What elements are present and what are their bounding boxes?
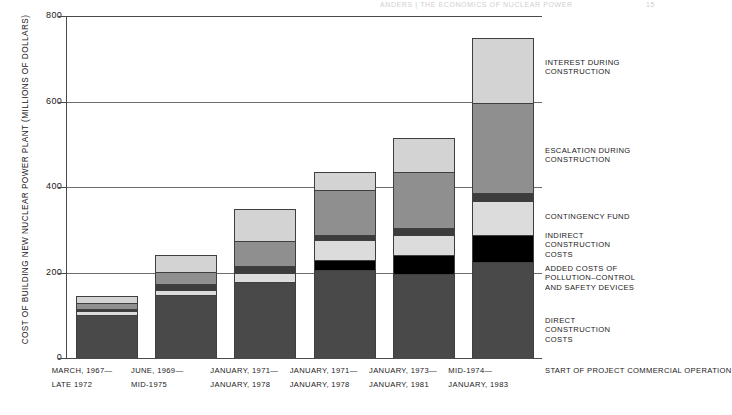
x-axis-label-start: JANUARY, 1973— [369, 366, 437, 375]
bar-segment-indirect[interactable] [234, 273, 296, 282]
x-axis-label: MID-1974—JANUARY, 1983 [448, 364, 508, 392]
legend-item-line1: INDIRECT [545, 231, 657, 240]
bar-group [66, 16, 542, 358]
bar-segment-contingency[interactable] [393, 228, 455, 235]
bar-segment-direct[interactable] [234, 282, 296, 358]
x-axis-labels: START OF PROJECT COMMERCIAL OPERATION MA… [0, 364, 655, 410]
legend-item-line3: COSTS [545, 250, 657, 259]
bar-segment-escalation[interactable] [393, 172, 455, 228]
legend-item-line1: DIRECT [545, 316, 657, 325]
bar-segment-direct[interactable] [393, 274, 455, 358]
bar-segment-escalation[interactable] [472, 103, 534, 193]
legend-item-line2: CONSTRUCTION [545, 240, 657, 249]
bar-column[interactable] [155, 255, 217, 358]
x-axis-label-operation: JANUARY, 1983 [448, 378, 508, 392]
bar-segment-added[interactable] [472, 235, 534, 262]
x-axis-label: JANUARY, 1971—JANUARY, 1978 [210, 364, 278, 392]
page-header: ANDERS | THE ECONOMICS OF NUCLEAR POWER … [380, 0, 655, 10]
x-axis-row-label-start: START OF PROJECT [545, 366, 625, 375]
y-tick-label: 200 [4, 267, 62, 277]
bar-segment-direct[interactable] [472, 262, 534, 358]
x-axis-row-legend: START OF PROJECT COMMERCIAL OPERATION [545, 364, 732, 378]
bar-segment-added[interactable] [393, 255, 455, 274]
legend-item-line2: CONSTRUCTION [545, 67, 657, 76]
legend-item-line3: AND SAFETY DEVICES [545, 283, 657, 292]
legend-item-line1: ESCALATION DURING [545, 146, 657, 155]
x-axis-label: MARCH, 1967—LATE 1972 [52, 364, 113, 392]
legend-item-line1: CONTINGENCY FUND [545, 212, 657, 221]
bar-segment-contingency[interactable] [234, 266, 296, 274]
x-axis-label: JUNE, 1969—MID-1975 [131, 364, 183, 392]
x-axis-label-start: MARCH, 1967— [52, 366, 113, 375]
bar-segment-interest[interactable] [155, 255, 217, 272]
legend-item-line1: INTEREST DURING [545, 58, 657, 67]
legend-item-line2: POLLUTION–CONTROL [545, 273, 657, 282]
bar-segment-interest[interactable] [76, 296, 138, 303]
bar-segment-escalation[interactable] [314, 190, 376, 234]
bar-column[interactable] [393, 138, 455, 358]
bar-segment-indirect[interactable] [393, 235, 455, 256]
bar-segment-interest[interactable] [234, 209, 296, 241]
y-tick-label: 800 [4, 10, 62, 20]
bar-column[interactable] [76, 296, 138, 358]
legend-item-line3: COSTS [545, 335, 657, 344]
bar-segment-direct[interactable] [314, 270, 376, 358]
legend-item: ESCALATION DURINGCONSTRUCTION [545, 146, 657, 165]
x-axis-label-start: JANUARY, 1971— [210, 366, 278, 375]
x-axis-label-operation: JANUARY, 1978 [290, 378, 358, 392]
legend-item: CONTINGENCY FUND [545, 212, 657, 221]
bar-segment-indirect[interactable] [314, 240, 376, 260]
bar-segment-interest[interactable] [393, 138, 455, 172]
bar-segment-contingency[interactable] [472, 193, 534, 202]
y-tick-mark [58, 187, 66, 188]
x-axis-label-start: MID-1974— [448, 366, 492, 375]
legend-item-line1: ADDED COSTS OF [545, 264, 657, 273]
bar-segment-indirect[interactable] [472, 201, 534, 235]
x-axis-label-operation: MID-1975 [131, 378, 183, 392]
y-tick-mark [58, 358, 66, 359]
bar-column[interactable] [314, 172, 376, 358]
x-axis-label-start: JUNE, 1969— [131, 366, 183, 375]
bar-segment-interest[interactable] [314, 172, 376, 190]
legend: INTEREST DURINGCONSTRUCTIONESCALATION DU… [545, 16, 655, 358]
bar-segment-added[interactable] [314, 260, 376, 270]
legend-item: INTEREST DURINGCONSTRUCTION [545, 58, 657, 77]
legend-item: INDIRECTCONSTRUCTIONCOSTS [545, 231, 657, 259]
y-tick-mark [58, 16, 66, 17]
y-tick-label: 0 [4, 352, 62, 362]
x-axis-label: JANUARY, 1973—JANUARY, 1981 [369, 364, 437, 392]
bar-segment-escalation[interactable] [234, 241, 296, 265]
page-header-title: ANDERS | THE ECONOMICS OF NUCLEAR POWER [380, 1, 573, 8]
bar-column[interactable] [472, 38, 534, 358]
page-number: 15 [646, 1, 655, 8]
bar-column[interactable] [234, 209, 296, 358]
x-axis-label-start: JANUARY, 1971— [290, 366, 358, 375]
legend-item-line2: CONSTRUCTION [545, 325, 657, 334]
x-axis-line [66, 358, 542, 359]
y-axis-title: COST OF BUILDING NEW NUCLEAR POWER PLANT… [21, 5, 30, 355]
x-axis-row-label-operation: COMMERCIAL OPERATION [627, 366, 731, 375]
y-tick-mark [58, 273, 66, 274]
legend-item: ADDED COSTS OFPOLLUTION–CONTROLAND SAFET… [545, 264, 657, 292]
x-axis-label: JANUARY, 1971—JANUARY, 1978 [290, 364, 358, 392]
x-axis-label-operation: JANUARY, 1981 [369, 378, 437, 392]
x-axis-label-operation: LATE 1972 [52, 378, 113, 392]
bar-segment-interest[interactable] [472, 38, 534, 103]
bar-segment-escalation[interactable] [155, 272, 217, 284]
x-axis-label-operation: JANUARY, 1978 [210, 378, 278, 392]
y-axis: COST OF BUILDING NEW NUCLEAR POWER PLANT… [0, 0, 62, 415]
legend-item-line2: CONSTRUCTION [545, 155, 657, 164]
legend-item: DIRECTCONSTRUCTIONCOSTS [545, 316, 657, 344]
y-tick-label: 400 [4, 181, 62, 191]
y-tick-label: 600 [4, 96, 62, 106]
y-tick-mark [58, 102, 66, 103]
bar-segment-direct[interactable] [76, 315, 138, 358]
bar-segment-direct[interactable] [155, 295, 217, 358]
